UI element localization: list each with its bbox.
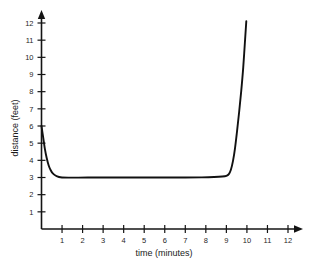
- x-tick-label-7: 7: [183, 236, 187, 245]
- distance-vs-time-line-chart: 123456789101112 123456789101112 time (mi…: [0, 0, 309, 268]
- y-tick-label-10: 10: [25, 53, 33, 62]
- y-axis-title: distance (feet): [10, 99, 20, 156]
- x-tick-label-8: 8: [204, 236, 208, 245]
- y-tick-label-3: 3: [29, 173, 33, 182]
- x-tick-label-3: 3: [101, 236, 105, 245]
- y-tick-label-1: 1: [29, 208, 33, 217]
- x-tick-label-2: 2: [80, 236, 84, 245]
- x-axis-title: time (minutes): [135, 248, 192, 258]
- y-tick-label-8: 8: [29, 87, 33, 96]
- y-tick-label-7: 7: [29, 105, 33, 114]
- chart-background: [0, 0, 309, 268]
- y-tick-label-12: 12: [25, 19, 33, 28]
- x-tick-label-12: 12: [284, 236, 292, 245]
- y-tick-label-9: 9: [29, 70, 33, 79]
- y-tick-label-4: 4: [29, 156, 33, 165]
- x-tick-label-6: 6: [163, 236, 167, 245]
- x-tick-label-4: 4: [122, 236, 126, 245]
- y-tick-label-11: 11: [26, 36, 34, 45]
- y-tick-label-6: 6: [29, 122, 33, 131]
- x-tick-label-10: 10: [243, 236, 251, 245]
- y-tick-label-2: 2: [29, 190, 33, 199]
- y-tick-label-5: 5: [29, 139, 33, 148]
- x-tick-label-11: 11: [264, 236, 272, 245]
- chart-container: 123456789101112 123456789101112 time (mi…: [0, 0, 309, 268]
- x-tick-label-5: 5: [142, 236, 146, 245]
- x-tick-label-9: 9: [224, 236, 228, 245]
- x-tick-label-1: 1: [60, 236, 64, 245]
